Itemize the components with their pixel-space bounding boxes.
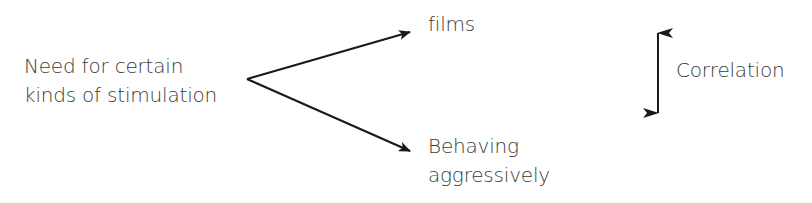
- diagram-arrows: [0, 0, 812, 203]
- arrow-to-films-icon: [247, 32, 410, 79]
- arrow-to-behaving-icon: [247, 79, 410, 151]
